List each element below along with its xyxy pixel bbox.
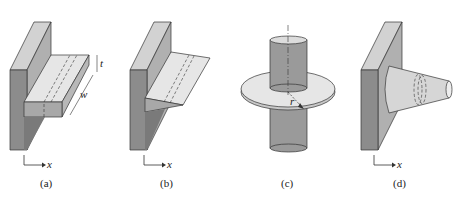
fin-diagram: t w x (a) x (b) r (c) [0, 0, 462, 197]
x-axis-label: x [396, 158, 402, 170]
radius-label: r [290, 95, 295, 107]
caption-a: (a) [40, 177, 53, 190]
cone-fin [385, 66, 449, 113]
x-axis-label: x [166, 158, 172, 170]
x-axis-arrow [24, 155, 42, 165]
width-label: w [80, 88, 88, 100]
panel-b: x (b) [130, 22, 210, 190]
panel-a: t w x (a) [10, 22, 104, 190]
fin-under-shadow [24, 117, 45, 150]
cylinder-top [270, 40, 307, 88]
caption-c: (c) [281, 177, 294, 190]
caption-b: (b) [160, 177, 173, 190]
thickness-label: t [100, 57, 104, 69]
fin-front [24, 102, 62, 117]
panel-d: x (d) [361, 22, 452, 190]
x-axis-label: x [46, 158, 52, 170]
panel-c: r (c) [241, 25, 335, 190]
caption-d: (d) [393, 177, 406, 190]
